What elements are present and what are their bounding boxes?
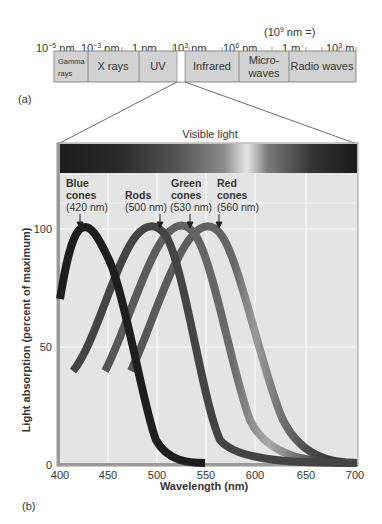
svg-text:600: 600 [246, 469, 264, 481]
y-axis-label: Light absorption (percent of maximum) [20, 227, 32, 432]
band-label-uv: UV [150, 60, 166, 72]
panel-a-label: (a) [18, 93, 31, 105]
svg-text:50: 50 [40, 341, 52, 353]
band-label-gamma: Gamma [58, 57, 86, 66]
band-label-gamma-line2: rays [58, 69, 72, 78]
svg-text:100: 100 [34, 223, 52, 235]
visible-band [177, 51, 185, 82]
em-spectrum-scale: (109 nm =) 10−5 nm 10−3 nm 1 nm 103 nm 1… [18, 26, 357, 144]
figure: (109 nm =) 10−5 nm 10−3 nm 1 nm 103 nm 1… [0, 0, 382, 524]
label-red-peak: (560 nm) [217, 201, 259, 213]
scale-note: (109 nm =) [264, 26, 315, 38]
x-axis-label: Wavelength (nm) [160, 480, 249, 492]
svg-text:400: 400 [51, 469, 69, 481]
zoom-line-left [58, 82, 177, 144]
panel-b-label: (b) [22, 500, 35, 512]
label-green-line1: Green [171, 177, 201, 189]
visible-spectrum-bar [60, 144, 357, 173]
band-label-infrared: Infrared [193, 60, 231, 72]
svg-text:650: 650 [297, 469, 315, 481]
label-blue-line1: Blue [66, 177, 89, 189]
band-label-microwaves-line2: waves [247, 67, 280, 79]
spectrum-label: Visible light [182, 128, 237, 140]
absorption-chart: Visible light [20, 128, 364, 512]
svg-text:450: 450 [99, 469, 117, 481]
label-green-line2: cones [171, 189, 202, 201]
label-rods-line1: Rods [125, 189, 151, 201]
label-blue-peak: (420 nm) [66, 201, 108, 213]
spectrum-band-bar: Gamma rays X rays UV Infrared Micro- wav… [54, 47, 356, 82]
label-red-line2: cones [217, 189, 248, 201]
y-axis-ticks: 100 50 0 [34, 223, 52, 471]
label-blue-line2: cones [66, 189, 97, 201]
band-label-xrays: X rays [97, 60, 129, 72]
band-label-microwaves: Micro- [249, 54, 280, 66]
label-rods-peak: (500 nm) [125, 201, 167, 213]
svg-text:700: 700 [346, 469, 364, 481]
label-red-line1: Red [217, 177, 237, 189]
label-green-peak: (530 nm) [170, 201, 212, 213]
band-label-radio: Radio waves [291, 60, 354, 72]
